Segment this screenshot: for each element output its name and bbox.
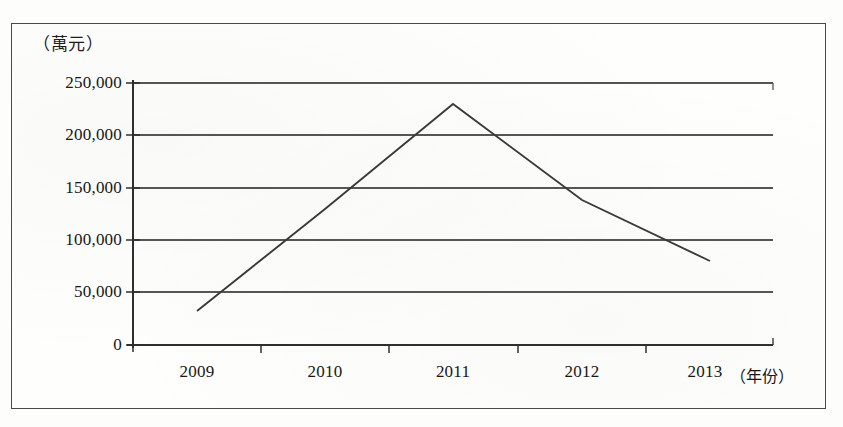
figure-page: （萬元） 250,000 200,000 150,000 100,000 50,…: [0, 0, 843, 427]
gridlines: [133, 83, 773, 292]
line-chart-plot-area: 250,000 200,000 150,000 100,000 50,000 0…: [0, 0, 843, 427]
chart-vector-layer: [0, 0, 843, 427]
